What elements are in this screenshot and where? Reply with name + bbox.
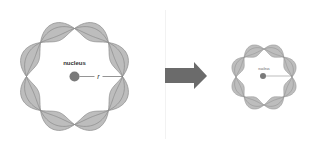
nucleus-label: nucleus	[258, 67, 270, 71]
radius-label: r	[97, 73, 100, 80]
nucleus-icon	[70, 72, 80, 82]
arrow-right-icon	[165, 62, 207, 89]
nucleus-icon	[260, 73, 266, 79]
nucleus-label: nucleus	[63, 60, 86, 66]
orbital-diagram: nucleus r nucleus	[0, 0, 313, 149]
